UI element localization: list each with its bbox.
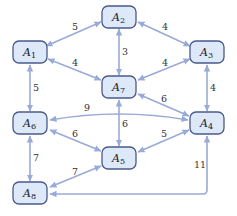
node-a1: A1 [13, 41, 47, 63]
node-a8: A8 [13, 182, 47, 204]
node-a2: A2 [102, 6, 136, 28]
node-a4: A4 [190, 112, 224, 134]
edge-label-a7-a5: 6 [122, 118, 128, 129]
node-a7: A7 [102, 76, 136, 98]
edge-label-a5-a4: 5 [161, 128, 167, 139]
edge-label-a7-a4: 6 [161, 93, 167, 104]
edge-label-a6-a4: 9 [84, 102, 90, 113]
node-a6: A6 [13, 112, 47, 134]
weighted-graph-diagram: 5 4 3 4 4 5 4 6 9 6 6 5 7 7 11 A1 A2 A3 … [0, 0, 237, 216]
node-a3: A3 [190, 41, 224, 63]
edge-label-a8-a4: 11 [194, 159, 206, 170]
edge-label-a6-a5: 6 [72, 128, 78, 139]
edge-label-a6-a8: 7 [33, 152, 39, 163]
edge-label-a3-a4: 4 [210, 82, 216, 93]
edge-label-a8-a5: 7 [72, 166, 78, 177]
edge-label-a2-a3: 4 [162, 21, 168, 32]
edge-label-a1-a6: 5 [33, 82, 39, 93]
edge-label-a1-a7: 4 [72, 57, 78, 68]
edge-label-a1-a2: 5 [72, 21, 78, 32]
edge-label-a2-a7: 3 [122, 46, 128, 57]
node-a5: A5 [102, 147, 136, 169]
edge-label-a3-a7: 4 [162, 57, 168, 68]
